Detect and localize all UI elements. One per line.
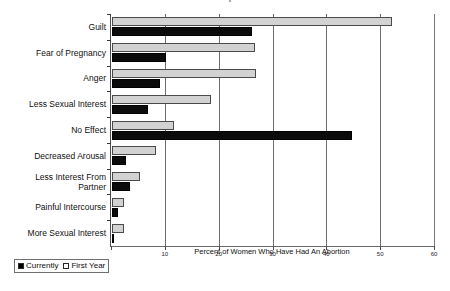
category-label-1: Fear of Pregnancy bbox=[0, 48, 106, 58]
bar-chart: Sexual Side Effects Reported After Abort… bbox=[0, 0, 450, 291]
category-label-5: Decreased Arousal bbox=[0, 151, 106, 161]
y-axis-tick-2 bbox=[107, 66, 111, 67]
plot-area: 102030405060 bbox=[110, 14, 435, 247]
bar-currently-0 bbox=[112, 27, 252, 36]
y-axis-tick-1 bbox=[107, 40, 111, 41]
chart-legend: CurrentlyFirst Year bbox=[14, 259, 109, 273]
bar-currently-1 bbox=[112, 53, 166, 62]
category-label-6: Less Interest From Partner bbox=[0, 172, 106, 192]
filled-square-icon bbox=[18, 263, 24, 269]
x-axis-tick-60 bbox=[434, 246, 435, 250]
bar-first-year-0 bbox=[112, 17, 392, 26]
x-axis-title: Percent of Women Who Have Had An Abortio… bbox=[110, 247, 434, 256]
y-axis-tick-7 bbox=[107, 194, 111, 195]
category-label-3: Less Sexual Interest bbox=[0, 99, 106, 109]
bar-currently-8 bbox=[112, 234, 114, 243]
bar-currently-3 bbox=[112, 105, 148, 114]
bar-currently-6 bbox=[112, 182, 130, 191]
category-label-8: More Sexual Interest bbox=[0, 228, 106, 238]
bar-first-year-3 bbox=[112, 95, 211, 104]
gridline-50 bbox=[380, 14, 381, 246]
bar-currently-4 bbox=[112, 131, 352, 140]
legend-label: First Year bbox=[71, 261, 105, 270]
legend-entry-currently: Currently bbox=[18, 261, 58, 270]
legend-label: Currently bbox=[26, 261, 58, 270]
bar-first-year-6 bbox=[112, 172, 140, 181]
open-square-icon bbox=[63, 263, 69, 269]
y-axis-tick-0 bbox=[107, 14, 111, 15]
category-label-4: No Effect bbox=[0, 125, 106, 135]
bar-first-year-2 bbox=[112, 69, 256, 78]
bar-first-year-7 bbox=[112, 198, 124, 207]
bar-first-year-8 bbox=[112, 224, 124, 233]
y-axis-tick-6 bbox=[107, 169, 111, 170]
bar-first-year-5 bbox=[112, 146, 156, 155]
bar-currently-5 bbox=[112, 156, 126, 165]
y-axis-tick-8 bbox=[107, 220, 111, 221]
bar-currently-2 bbox=[112, 79, 160, 88]
y-axis-tick-3 bbox=[107, 91, 111, 92]
category-label-0: Guilt bbox=[0, 22, 106, 32]
bar-first-year-4 bbox=[112, 121, 174, 130]
bar-currently-7 bbox=[112, 208, 118, 217]
category-label-7: Painful Intercourse bbox=[0, 202, 106, 212]
y-axis-tick-5 bbox=[107, 143, 111, 144]
y-axis-tick-4 bbox=[107, 117, 111, 118]
category-label-2: Anger bbox=[0, 73, 106, 83]
bar-first-year-1 bbox=[112, 43, 255, 52]
chart-title: Sexual Side Effects Reported After Abort… bbox=[0, 0, 450, 3]
legend-entry-first-year: First Year bbox=[63, 261, 105, 270]
